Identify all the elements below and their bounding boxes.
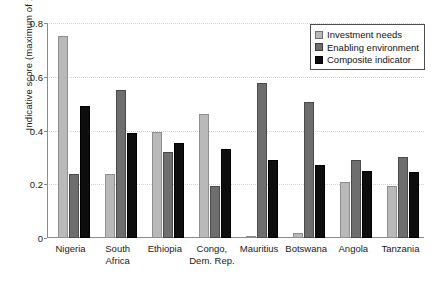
bar bbox=[80, 106, 90, 238]
bar bbox=[163, 152, 173, 238]
x-axis-label: Botswana bbox=[283, 243, 330, 255]
legend-label: Composite indicator bbox=[327, 54, 411, 65]
bar-group bbox=[58, 23, 90, 238]
bar bbox=[351, 160, 361, 238]
y-axis-line bbox=[47, 23, 48, 238]
bar bbox=[174, 143, 184, 238]
y-tick-label: 0 bbox=[38, 233, 43, 244]
y-tick-label: 0.4 bbox=[30, 125, 43, 136]
bar bbox=[387, 186, 397, 238]
bar bbox=[293, 233, 303, 238]
x-axis-label: South Africa bbox=[94, 243, 141, 266]
legend-label: Investment needs bbox=[327, 29, 402, 40]
x-axis-label: Mauritius bbox=[236, 243, 283, 255]
bar-group bbox=[105, 23, 137, 238]
bar-group bbox=[246, 23, 278, 238]
bar bbox=[69, 174, 79, 239]
bar-group bbox=[152, 23, 184, 238]
bar bbox=[340, 182, 350, 238]
y-tick-mark bbox=[44, 77, 47, 78]
bar bbox=[304, 102, 314, 238]
bar bbox=[58, 36, 68, 238]
x-axis-label: Nigeria bbox=[47, 243, 94, 255]
legend: Investment needsEnabling environmentComp… bbox=[310, 24, 425, 70]
bar bbox=[268, 160, 278, 238]
bar bbox=[210, 186, 220, 238]
y-tick-mark bbox=[44, 238, 47, 239]
y-tick-label: 0.8 bbox=[30, 18, 43, 29]
bar bbox=[409, 172, 419, 238]
legend-swatch-icon bbox=[315, 56, 323, 64]
bar bbox=[105, 174, 115, 239]
legend-swatch-icon bbox=[315, 43, 323, 51]
legend-item: Composite indicator bbox=[315, 54, 419, 66]
bar bbox=[315, 165, 325, 238]
y-tick-mark bbox=[44, 23, 47, 24]
bar bbox=[152, 132, 162, 238]
y-tick-label: 0.6 bbox=[30, 71, 43, 82]
legend-label: Enabling environment bbox=[327, 42, 419, 53]
y-tick-label: 0.2 bbox=[30, 179, 43, 190]
bar bbox=[221, 149, 231, 238]
bar bbox=[246, 236, 256, 238]
legend-item: Enabling environment bbox=[315, 41, 419, 53]
x-axis-label: Ethiopia bbox=[141, 243, 188, 255]
y-tick-mark bbox=[44, 184, 47, 185]
x-axis-label: Tanzania bbox=[377, 243, 424, 255]
x-axis-label: Congo, Dem. Rep. bbox=[188, 243, 235, 266]
legend-swatch-icon bbox=[315, 31, 323, 39]
y-tick-mark bbox=[44, 131, 47, 132]
bar bbox=[257, 83, 267, 238]
bar bbox=[362, 171, 372, 238]
legend-item: Investment needs bbox=[315, 29, 419, 41]
x-axis-label: Angola bbox=[330, 243, 377, 255]
bar bbox=[398, 157, 408, 238]
bar bbox=[127, 133, 137, 238]
bar-chart: Indicative score (maximum of 1) 00.20.40… bbox=[0, 0, 431, 288]
bar bbox=[199, 114, 209, 238]
bar-group bbox=[199, 23, 231, 238]
bar bbox=[116, 90, 126, 238]
